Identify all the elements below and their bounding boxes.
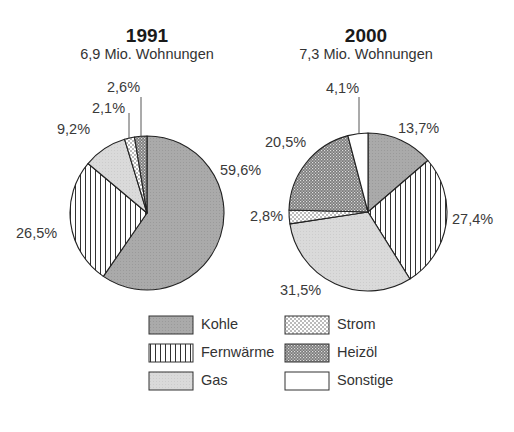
label-1991-gas: 9,2%	[57, 121, 90, 137]
legend-label-strom: Strom	[337, 316, 376, 332]
label-2000-fernwaerme: 27,4%	[452, 211, 493, 227]
pie-2000	[289, 133, 447, 291]
legend-swatch-strom	[285, 316, 329, 334]
label-1991-fernwaerme: 26,5%	[16, 225, 57, 241]
legend-label-kohle: Kohle	[201, 316, 238, 332]
chart-title-1991: 1991	[107, 25, 187, 47]
label-2000-kohle: 13,7%	[398, 120, 439, 136]
legend-label-heizoel: Heizöl	[337, 344, 377, 360]
label-1991-heizoel: 2,6%	[107, 79, 140, 95]
legend-label-sonstige: Sonstige	[337, 372, 393, 388]
legend-swatch-kohle	[149, 316, 193, 334]
label-2000-strom: 2,8%	[250, 208, 283, 224]
legend-swatch-gas	[149, 372, 193, 390]
chart-subtitle-2000: 7,3 Mio. Wohnungen	[276, 46, 456, 62]
legend-label-gas: Gas	[201, 372, 228, 388]
label-1991-kohle: 59,6%	[220, 162, 261, 178]
pie-1991	[70, 136, 224, 290]
label-2000-heizoel: 20,5%	[265, 134, 306, 150]
chart-subtitle-1991: 6,9 Mio. Wohnungen	[57, 46, 237, 62]
legend-swatch-sonstige	[285, 372, 329, 390]
label-2000-gas: 31,5%	[280, 282, 321, 298]
legend-label-fernwaerme: Fernwärme	[201, 344, 274, 360]
chart-title-2000: 2000	[326, 25, 406, 47]
label-1991-strom: 2,1%	[92, 100, 125, 116]
legend-swatch-heizoel	[285, 344, 329, 362]
legend-swatch-fernwaerme	[149, 344, 193, 362]
label-2000-sonstige: 4,1%	[326, 80, 359, 96]
